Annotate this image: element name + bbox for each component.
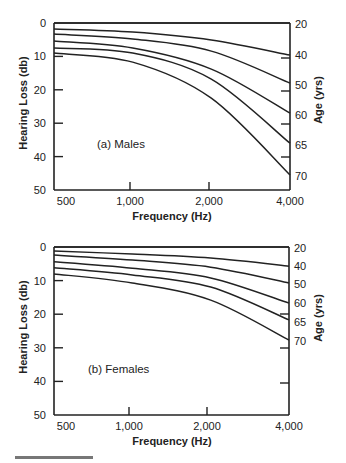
y-tick-label: 20 <box>34 84 46 96</box>
age-curve-60 <box>54 262 289 303</box>
y-axis-title: Hearing Loss (db) <box>17 56 29 150</box>
y-tick-label: 20 <box>34 308 46 320</box>
x-axis-title: Frequency (Hz) <box>132 210 212 222</box>
age-curve-70 <box>54 53 290 175</box>
age-curve-70 <box>54 274 289 340</box>
y2-axis-title: Age (yrs) <box>312 294 324 342</box>
age-label: 65 <box>295 139 307 151</box>
x-tick-label: 2,000 <box>193 420 221 432</box>
age-label: 70 <box>294 335 306 347</box>
age-label: 60 <box>294 297 306 309</box>
y-tick-label: 30 <box>34 342 46 354</box>
age-label: 60 <box>295 109 307 121</box>
x-axis-title: Frequency (Hz) <box>132 435 212 447</box>
age-label: 20 <box>294 242 306 254</box>
age-label: 65 <box>294 316 306 328</box>
axis-ticks <box>54 281 289 415</box>
females-chart: 0 10 20 30 40 50 500 1,000 2,000 4,000 2… <box>17 241 324 447</box>
hearing-loss-figure: 0 10 20 30 40 50 500 1,000 2,000 4,000 2… <box>0 0 346 463</box>
x-tick-label: 1,000 <box>115 420 143 432</box>
x-tick-label: 4,000 <box>276 195 304 207</box>
y-axis-title: Hearing Loss (db) <box>17 280 29 374</box>
y-tick-label: 30 <box>34 117 46 129</box>
footer-rule <box>15 456 93 459</box>
y-tick-label: 50 <box>34 184 46 196</box>
age-curves <box>54 247 289 340</box>
x-tick-label: 2,000 <box>195 195 223 207</box>
age-label: 40 <box>295 49 307 61</box>
x-tick-label: 500 <box>57 195 75 207</box>
y-tick-label: 0 <box>40 241 46 253</box>
x-tick-label: 500 <box>57 420 75 432</box>
panel-label: (a) Males <box>97 138 145 150</box>
x-tick-label: 1,000 <box>116 195 144 207</box>
y-tick-label: 40 <box>34 375 46 387</box>
y-tick-label: 0 <box>40 17 46 29</box>
y2-axis-title: Age (yrs) <box>312 76 324 124</box>
age-curve-65 <box>54 48 290 143</box>
age-label: 50 <box>295 79 307 91</box>
age-label: 50 <box>294 278 306 290</box>
y-tick-label: 10 <box>34 275 46 287</box>
age-curve-40 <box>54 29 290 55</box>
age-label: 20 <box>295 18 307 30</box>
age-label: 40 <box>294 260 306 272</box>
panel-label: (b) Females <box>88 363 150 375</box>
y-tick-label: 10 <box>34 50 46 62</box>
y-tick-label: 50 <box>34 409 46 421</box>
age-label: 70 <box>295 170 307 182</box>
age-curves <box>54 23 290 175</box>
males-chart: 0 10 20 30 40 50 500 1,000 2,000 4,000 2… <box>17 17 324 222</box>
y-tick-label: 40 <box>34 151 46 163</box>
x-tick-label: 4,000 <box>275 420 303 432</box>
age-curve-60 <box>54 41 290 113</box>
